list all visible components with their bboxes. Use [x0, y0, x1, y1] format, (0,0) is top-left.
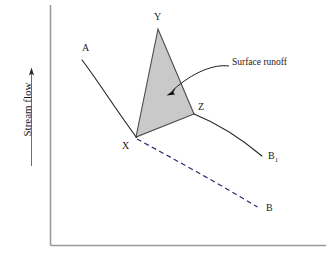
curve-label-b1-subscript: 1: [275, 156, 279, 164]
point-label-x: X: [122, 141, 129, 151]
hydrograph-figure: Stream flow Y X Z A B1 B Surface runoff: [0, 0, 326, 263]
curve-label-a: A: [82, 43, 89, 53]
curve-a-to-x: [82, 60, 137, 138]
hydrograph-svg: [0, 0, 326, 263]
point-label-z: Z: [198, 102, 204, 112]
point-label-y: Y: [154, 12, 161, 22]
surface-runoff-annotation-label: Surface runoff: [232, 58, 287, 68]
surface-runoff-region: [136, 29, 194, 137]
curve-label-b1-base: B: [268, 150, 275, 161]
curve-label-b: B: [266, 203, 273, 213]
curve-x-to-b-dashed: [137, 139, 258, 207]
curve-label-b1: B1: [268, 151, 278, 164]
curve-z-to-b1: [194, 114, 262, 156]
y-axis-label: Stream flow: [22, 62, 33, 158]
